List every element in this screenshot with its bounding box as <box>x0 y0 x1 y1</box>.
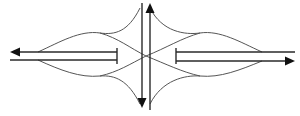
east-lanes <box>176 48 295 66</box>
left-flare-curves <box>38 8 146 104</box>
intersection-diagram <box>0 0 300 116</box>
right-flare-curves <box>146 8 262 104</box>
arrow-left-icon <box>10 48 20 57</box>
west-lanes <box>10 48 117 65</box>
arrow-up-icon <box>146 3 155 13</box>
arrow-right-icon <box>285 57 295 66</box>
arrow-down-icon <box>138 98 147 108</box>
